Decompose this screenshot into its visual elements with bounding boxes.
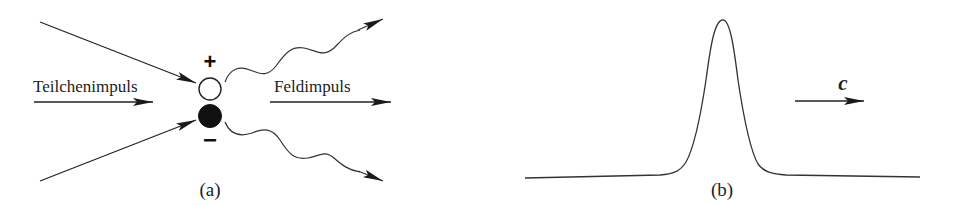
panel-a: Teilchenimpuls + − Feldimpuls (a) — [33, 19, 391, 201]
panel-b-caption: (b) — [711, 179, 733, 201]
pulse-curve — [525, 20, 920, 178]
field-momentum-label: Feldimpuls — [274, 77, 351, 96]
field-wave-lower-arrowhead — [358, 171, 383, 181]
incoming-arrow-upper — [40, 22, 196, 83]
positive-particle-icon — [199, 78, 221, 100]
particle-momentum-label: Teilchenimpuls — [33, 77, 138, 96]
field-wave-lower — [225, 122, 360, 172]
negative-particle-icon — [199, 105, 222, 128]
velocity-label: c — [838, 71, 848, 95]
panel-b: c (b) — [525, 20, 920, 201]
field-wave-upper-arrowhead — [358, 19, 383, 30]
positive-sign: + — [204, 49, 217, 74]
negative-sign: − — [203, 126, 217, 153]
panel-a-caption: (a) — [199, 179, 220, 201]
incoming-arrow-lower — [40, 120, 196, 181]
figure: Teilchenimpuls + − Feldimpuls (a) c (b) — [0, 0, 954, 205]
field-wave-upper — [225, 30, 360, 82]
